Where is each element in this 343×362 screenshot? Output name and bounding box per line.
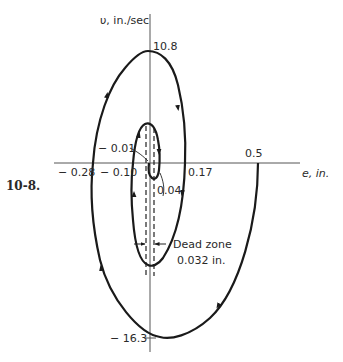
y-tick-bottom-label: − 16.3 — [110, 332, 147, 345]
y-axis-label: υ, in./sec — [100, 14, 149, 27]
x-label-05: 0.5 — [245, 147, 263, 160]
y-tick-top-label: 10.8 — [153, 40, 178, 53]
x-label-017: 0.17 — [188, 166, 213, 179]
figure-number: 10-8. — [6, 179, 40, 193]
label-neg-001: − 0.01 — [98, 142, 135, 155]
x-label-neg-028: − 0.28 — [58, 166, 95, 179]
dead-zone-width: 0.032 in. — [177, 254, 226, 267]
label-004: 0.04 — [157, 184, 182, 197]
dead-zone-title: Dead zone — [173, 238, 232, 251]
direction-arrows — [101, 95, 221, 306]
phase-plane-figure: υ, in./sec 10.8 − 16.3 e, in. − 0.28 − 0… — [0, 0, 343, 362]
x-label-neg-010: − 0.10 — [100, 166, 137, 179]
x-axis-label: e, in. — [302, 167, 329, 180]
